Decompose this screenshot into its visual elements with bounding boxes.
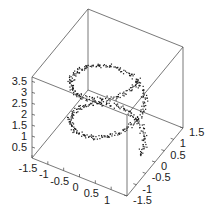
data-point	[132, 84, 133, 85]
data-point	[115, 66, 116, 67]
data-point	[85, 95, 86, 96]
data-point	[113, 66, 114, 67]
x-tick-label: 1	[104, 194, 110, 206]
data-point	[77, 72, 78, 73]
data-points	[67, 64, 148, 157]
data-point	[147, 98, 148, 99]
data-point	[107, 96, 108, 97]
box-edge	[88, 9, 183, 47]
data-point	[80, 105, 81, 106]
data-point	[142, 148, 143, 149]
data-point	[72, 78, 73, 79]
data-point	[75, 73, 76, 74]
data-point	[74, 108, 75, 109]
scatter3d-plot: -1.5-1-0.500.51 -1.5-1-0.500.511.5 0.511…	[0, 0, 210, 217]
z-tick-label: 2.5	[12, 97, 27, 109]
data-point	[73, 88, 74, 89]
data-point	[130, 90, 131, 91]
data-point	[68, 117, 69, 118]
data-point	[75, 91, 76, 92]
data-point	[69, 80, 70, 81]
data-point	[100, 67, 101, 68]
data-point	[110, 106, 111, 107]
data-point	[77, 109, 78, 110]
data-point	[69, 79, 70, 80]
data-point	[88, 106, 89, 107]
data-point	[139, 85, 140, 86]
data-point	[70, 122, 71, 123]
data-point	[101, 136, 102, 137]
data-point	[141, 130, 142, 131]
data-point	[123, 108, 124, 109]
data-point	[82, 70, 83, 71]
data-point	[74, 75, 75, 76]
data-point	[146, 147, 147, 148]
box-edge	[32, 9, 88, 77]
data-point	[73, 110, 74, 111]
data-point	[76, 112, 77, 113]
data-point	[88, 65, 89, 66]
data-point	[135, 86, 136, 87]
data-point	[144, 106, 145, 107]
data-point	[89, 96, 90, 97]
data-point	[97, 96, 98, 97]
data-point	[70, 121, 71, 122]
data-point	[69, 119, 70, 120]
data-point	[83, 107, 84, 108]
data-point	[91, 137, 92, 138]
data-point	[108, 99, 109, 100]
data-point	[120, 67, 121, 68]
data-point	[73, 85, 74, 86]
data-point	[86, 134, 87, 135]
data-point	[97, 139, 98, 140]
data-point	[143, 96, 144, 97]
data-point	[107, 66, 108, 67]
data-point	[94, 101, 95, 102]
data-point	[118, 69, 119, 70]
data-point	[145, 142, 146, 143]
data-point	[113, 96, 114, 97]
data-point	[96, 103, 97, 104]
data-point	[91, 97, 92, 98]
x-tick-label: -1.5	[19, 162, 38, 174]
data-point	[92, 101, 93, 102]
data-point	[121, 71, 122, 72]
z-tick-label: 1.5	[12, 119, 27, 131]
data-point	[76, 130, 77, 131]
data-point	[146, 95, 147, 96]
data-point	[85, 100, 86, 101]
data-point	[89, 136, 90, 137]
data-point	[105, 65, 106, 66]
data-point	[72, 125, 73, 126]
data-point	[72, 117, 73, 118]
data-point	[98, 135, 99, 136]
data-point	[74, 70, 75, 71]
data-point	[121, 107, 122, 108]
data-point	[71, 81, 72, 82]
x-tick-label: -0.5	[50, 175, 69, 187]
data-point	[140, 109, 141, 110]
data-point	[120, 71, 121, 72]
data-point	[123, 92, 124, 93]
z-axis-tick-labels: 0.511.522.533.5	[12, 75, 27, 153]
data-point	[73, 131, 74, 132]
data-point	[84, 69, 85, 70]
data-point	[91, 65, 92, 66]
data-point	[143, 110, 144, 111]
data-point	[131, 115, 132, 116]
data-point	[106, 103, 107, 104]
data-point	[142, 131, 143, 132]
data-point	[118, 94, 119, 95]
data-point	[81, 93, 82, 94]
data-point	[95, 136, 96, 137]
data-point	[131, 74, 132, 75]
data-point	[122, 93, 123, 94]
data-point	[140, 114, 141, 115]
data-point	[103, 101, 104, 102]
z-tick-label: 2	[21, 108, 27, 120]
data-point	[135, 118, 136, 119]
data-point	[99, 65, 100, 66]
data-point	[74, 128, 75, 129]
data-point	[72, 81, 73, 82]
data-point	[111, 135, 112, 136]
